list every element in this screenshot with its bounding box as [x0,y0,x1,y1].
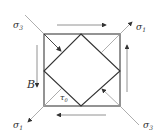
label-sigma1-bottom-left: σ1 [13,120,23,131]
stress-element-diagram: σ3 σ1 σ1 σ3 B τ0 [0,0,158,133]
label-sigma3-top-left: σ3 [13,20,23,31]
label-point-b: B [26,78,35,91]
label-tau: τ0 [60,93,68,103]
label-sigma1-top-right: σ1 [136,22,146,33]
label-sigma3-bottom-right: σ3 [143,120,153,131]
sigma3-top-left-line [25,15,44,34]
sigma3-top-left-arrow [44,34,61,51]
tau-reference-line [44,90,60,106]
sigma3-bottom-right-line [120,106,139,125]
sigma3-bottom-right-arrow [102,89,120,106]
